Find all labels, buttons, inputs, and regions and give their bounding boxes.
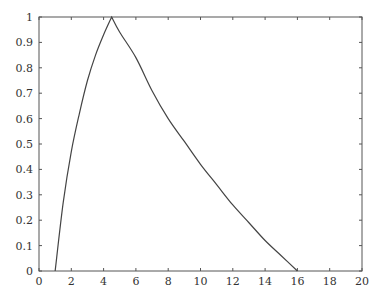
x-tick-label: 14	[258, 275, 272, 288]
y-tick-label: 0.1	[16, 240, 34, 253]
y-tick-label: 0.2	[16, 214, 34, 227]
y-tick-label: 0.9	[16, 36, 34, 49]
x-tick-label: 0	[36, 275, 43, 288]
y-tick-label: 0	[26, 265, 33, 278]
x-tick-label: 12	[226, 275, 240, 288]
y-tick-label: 0.3	[16, 189, 34, 202]
x-tick-label: 16	[290, 275, 304, 288]
y-tick-label: 0.8	[16, 62, 34, 75]
data-line	[55, 17, 297, 271]
line-chart: 02468101214161820 00.10.20.30.40.50.60.7…	[0, 0, 384, 299]
x-tick-label: 4	[100, 275, 107, 288]
x-tick-label: 2	[68, 275, 75, 288]
y-axis-ticks: 00.10.20.30.40.50.60.70.80.91	[16, 11, 363, 278]
y-tick-label: 0.5	[16, 138, 34, 151]
y-tick-label: 0.4	[16, 163, 34, 176]
x-tick-label: 18	[323, 275, 337, 288]
x-axis-ticks: 02468101214161820	[36, 17, 370, 288]
x-tick-label: 8	[165, 275, 172, 288]
y-tick-label: 1	[26, 11, 33, 24]
x-tick-label: 20	[355, 275, 369, 288]
y-tick-label: 0.7	[16, 87, 34, 100]
x-tick-label: 6	[132, 275, 139, 288]
x-tick-label: 10	[194, 275, 208, 288]
y-tick-label: 0.6	[16, 113, 34, 126]
plot-frame	[39, 17, 362, 271]
